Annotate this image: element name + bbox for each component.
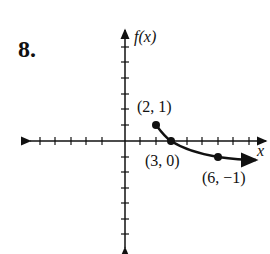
point-6-neg1 [214, 153, 222, 161]
label-point-6-neg1: (6, −1) [202, 169, 246, 187]
y-axis-label: f(x) [134, 28, 156, 46]
label-point-3-0: (3, 0) [145, 152, 180, 170]
graph: f(x) x (2, 1) (3, 0) (6, −1) [0, 0, 270, 254]
label-point-2-1: (2, 1) [137, 98, 172, 116]
point-3-0 [167, 137, 175, 145]
point-2-1 [152, 121, 160, 129]
x-axis-label: x [256, 142, 264, 159]
